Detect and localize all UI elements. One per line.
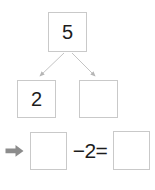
- equation-operator-text: −2=: [67, 132, 113, 170]
- math-worksheet-number-bond: 5 2 −2=: [0, 0, 155, 190]
- number-bond-whole-value: 5: [62, 22, 73, 42]
- number-bond-part-box-right[interactable]: [79, 80, 118, 118]
- equation-minuend-answer-box[interactable]: [30, 132, 67, 170]
- equation-difference-answer-box[interactable]: [113, 131, 150, 170]
- connector-arrow-right: [72, 53, 95, 76]
- number-bond-part-box-left[interactable]: 2: [17, 80, 56, 118]
- number-bond-part-left-value: 2: [31, 89, 42, 109]
- connector-arrow-left: [40, 53, 64, 76]
- number-bond-whole-box[interactable]: 5: [48, 12, 87, 52]
- right-arrow-icon: [5, 142, 25, 160]
